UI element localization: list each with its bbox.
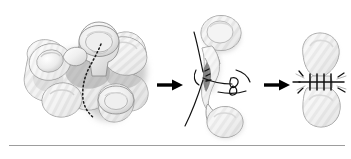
arrow-1-hit[interactable]: [155, 76, 185, 94]
panel-suture-placement-hit[interactable]: [184, 6, 256, 138]
panel-vertebra-hit[interactable]: [6, 8, 148, 134]
bottom-rule-hit: [8, 141, 346, 149]
panel-completed-repair-hit[interactable]: [292, 24, 346, 124]
figure-root: Pars interarticularis defect repair sequ…: [0, 0, 351, 159]
arrow-2-hit[interactable]: [262, 76, 292, 94]
